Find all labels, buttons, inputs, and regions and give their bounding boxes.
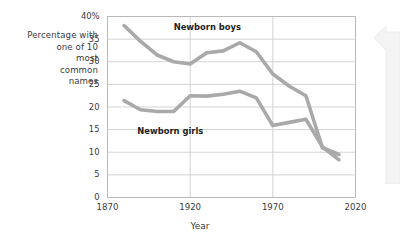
y-axis-tick-label: 10 — [60, 147, 100, 157]
y-axis-tick-label: 30 — [60, 56, 100, 66]
x-axis-tick-label: 1970 — [243, 202, 303, 212]
chart-figure: Percentage with one of 10 most common na… — [0, 0, 400, 242]
series-label: Newborn girls — [137, 126, 203, 136]
y-axis-tick-label: 25 — [60, 79, 100, 89]
x-axis-tick-label: 2020 — [326, 202, 386, 212]
y-axis-tick-label: 0 — [60, 192, 100, 202]
x-axis-title: Year — [0, 221, 400, 231]
y-axis-tick-label: 40% — [60, 11, 100, 21]
y-axis-tick-label: 20 — [60, 102, 100, 112]
y-axis-tick-label: 5 — [60, 169, 100, 179]
y-axis-tick-label: 15 — [60, 124, 100, 134]
x-axis-tick-label: 1920 — [160, 202, 220, 212]
x-axis-tick-label: 1870 — [78, 202, 138, 212]
y-axis-tick-label: 35 — [60, 34, 100, 44]
series-label: Newborn boys — [174, 22, 241, 32]
